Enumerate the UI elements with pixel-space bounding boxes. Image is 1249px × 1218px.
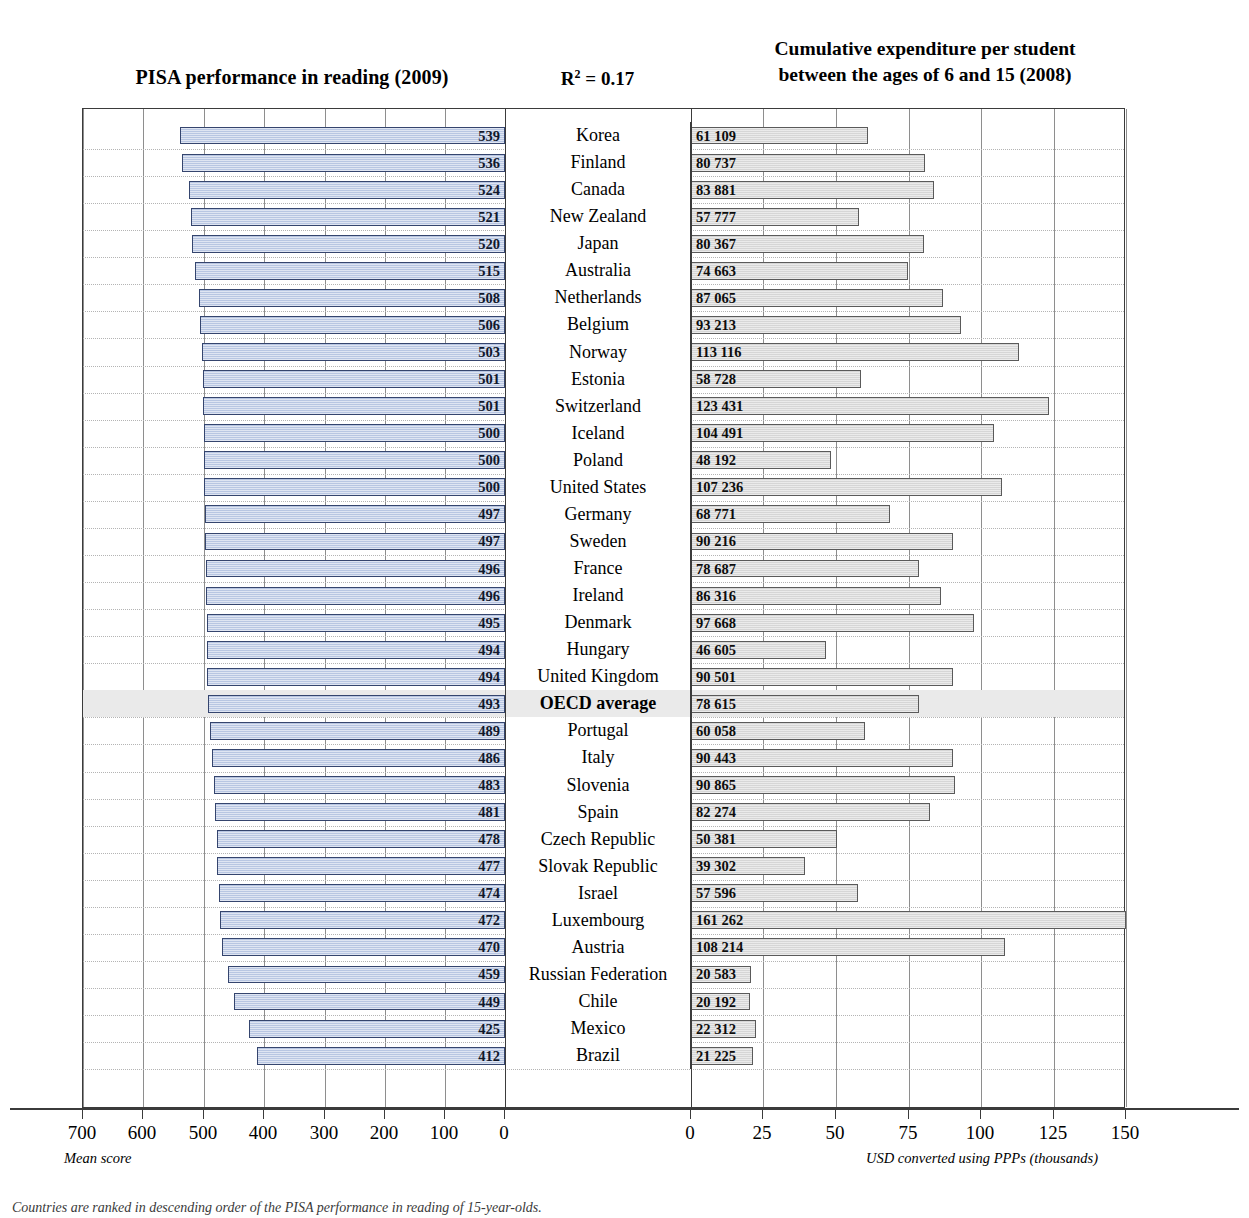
chart-row: 503Norway113 116 bbox=[83, 338, 1124, 365]
country-label: Luxembourg bbox=[505, 907, 691, 934]
r-squared-r: R bbox=[561, 68, 575, 89]
bar-pisa-score: 493 bbox=[208, 695, 505, 713]
bar-value-expenditure: 90 443 bbox=[696, 751, 736, 766]
bar-expenditure: 48 192 bbox=[691, 451, 831, 469]
axis-caption-right: USD converted using PPPs (thousands) bbox=[866, 1150, 1098, 1167]
bar-value-expenditure: 123 431 bbox=[696, 399, 743, 414]
chart-row: 425Mexico22 312 bbox=[83, 1015, 1124, 1042]
bar-pisa-score: 483 bbox=[214, 776, 505, 794]
bar-value-expenditure: 57 777 bbox=[696, 209, 736, 224]
bar-expenditure: 46 605 bbox=[691, 641, 826, 659]
axis-tick-left-200 bbox=[384, 1108, 385, 1119]
bar-value-pisa-score: 497 bbox=[478, 534, 500, 549]
bar-expenditure: 78 687 bbox=[691, 560, 919, 578]
bar-value-pisa-score: 503 bbox=[478, 345, 500, 360]
bar-value-expenditure: 74 663 bbox=[696, 264, 736, 279]
chart-row: 412Brazil21 225 bbox=[83, 1042, 1124, 1069]
axis-tick-label-left-700: 700 bbox=[52, 1122, 112, 1144]
chart-row: 478Czech Republic50 381 bbox=[83, 826, 1124, 853]
bar-expenditure: 90 443 bbox=[691, 749, 953, 767]
bar-expenditure: 61 109 bbox=[691, 127, 868, 145]
bar-expenditure: 93 213 bbox=[691, 316, 961, 334]
bar-expenditure: 57 777 bbox=[691, 208, 859, 226]
axis-tick-label-left-500: 500 bbox=[173, 1122, 233, 1144]
country-label: Russian Federation bbox=[505, 961, 691, 988]
bar-pisa-score: 494 bbox=[207, 668, 505, 686]
chart-row: 493OECD average78 615 bbox=[83, 690, 1124, 717]
chart-row: 506Belgium93 213 bbox=[83, 311, 1124, 338]
bar-expenditure: 22 312 bbox=[691, 1020, 756, 1038]
bar-pisa-score: 497 bbox=[205, 533, 505, 551]
chart-row: 496France78 687 bbox=[83, 555, 1124, 582]
bar-expenditure: 80 367 bbox=[691, 235, 924, 253]
bar-value-pisa-score: 508 bbox=[478, 291, 500, 306]
chart-title-right-line2: between the ages of 6 and 15 (2008) bbox=[690, 62, 1160, 88]
bar-value-expenditure: 61 109 bbox=[696, 128, 736, 143]
bar-pisa-score: 486 bbox=[212, 749, 505, 767]
bar-pisa-score: 496 bbox=[206, 560, 505, 578]
bar-value-pisa-score: 496 bbox=[478, 561, 500, 576]
chart-row: 521New Zealand57 777 bbox=[83, 203, 1124, 230]
bar-value-expenditure: 20 583 bbox=[696, 967, 736, 982]
bar-value-pisa-score: 474 bbox=[478, 886, 500, 901]
bar-value-expenditure: 78 687 bbox=[696, 561, 736, 576]
bar-pisa-score: 459 bbox=[228, 966, 505, 984]
bar-expenditure: 108 214 bbox=[691, 938, 1005, 956]
chart-row: 472Luxembourg161 262 bbox=[83, 907, 1124, 934]
axis-tick-left-400 bbox=[263, 1108, 264, 1119]
bar-value-expenditure: 107 236 bbox=[696, 480, 743, 495]
bar-value-pisa-score: 539 bbox=[478, 128, 500, 143]
bar-value-pisa-score: 486 bbox=[478, 751, 500, 766]
country-label: Denmark bbox=[505, 609, 691, 636]
country-label: Italy bbox=[505, 744, 691, 771]
chart-row: 497Sweden90 216 bbox=[83, 528, 1124, 555]
country-label: Slovak Republic bbox=[505, 853, 691, 880]
bar-expenditure: 97 668 bbox=[691, 614, 974, 632]
bar-value-expenditure: 113 116 bbox=[696, 345, 742, 360]
bar-expenditure: 39 302 bbox=[691, 857, 805, 875]
bar-pisa-score: 536 bbox=[182, 154, 505, 172]
axis-tick-label-left-600: 600 bbox=[112, 1122, 172, 1144]
bar-value-pisa-score: 521 bbox=[478, 209, 500, 224]
country-label: Finland bbox=[505, 149, 691, 176]
chart-row: 470Austria108 214 bbox=[83, 934, 1124, 961]
country-label: Iceland bbox=[505, 420, 691, 447]
country-label: New Zealand bbox=[505, 203, 691, 230]
bar-pisa-score: 506 bbox=[200, 316, 505, 334]
bar-expenditure: 68 771 bbox=[691, 505, 890, 523]
chart-row: 501Switzerland123 431 bbox=[83, 393, 1124, 420]
country-label: Hungary bbox=[505, 636, 691, 663]
axis-tick-label-right-75: 75 bbox=[878, 1122, 938, 1144]
country-label: Netherlands bbox=[505, 284, 691, 311]
bar-value-pisa-score: 494 bbox=[478, 642, 500, 657]
r-squared-value: = 0.17 bbox=[581, 68, 635, 89]
country-label: Belgium bbox=[505, 311, 691, 338]
axis-tick-right-0 bbox=[690, 1108, 691, 1119]
bar-value-pisa-score: 449 bbox=[478, 994, 500, 1009]
chart-row: 449Chile20 192 bbox=[83, 988, 1124, 1015]
bar-expenditure: 82 274 bbox=[691, 803, 930, 821]
bar-value-expenditure: 82 274 bbox=[696, 805, 736, 820]
country-label: Israel bbox=[505, 880, 691, 907]
bar-value-pisa-score: 496 bbox=[478, 588, 500, 603]
bar-expenditure: 87 065 bbox=[691, 289, 943, 307]
bar-value-pisa-score: 501 bbox=[478, 399, 500, 414]
bar-value-expenditure: 21 225 bbox=[696, 1048, 736, 1063]
bar-expenditure: 21 225 bbox=[691, 1047, 753, 1065]
bar-pisa-score: 501 bbox=[203, 370, 505, 388]
axis-tick-left-100 bbox=[444, 1108, 445, 1119]
axis-tick-label-right-25: 25 bbox=[732, 1122, 792, 1144]
bar-pisa-score: 497 bbox=[205, 505, 505, 523]
bar-pisa-score: 489 bbox=[210, 722, 505, 740]
bar-value-expenditure: 97 668 bbox=[696, 615, 736, 630]
chart-row: 524Canada83 881 bbox=[83, 176, 1124, 203]
bar-value-expenditure: 93 213 bbox=[696, 318, 736, 333]
bar-value-pisa-score: 425 bbox=[478, 1021, 500, 1036]
chart-row: 496Ireland86 316 bbox=[83, 582, 1124, 609]
chart-row: 459Russian Federation20 583 bbox=[83, 961, 1124, 988]
bar-expenditure: 20 583 bbox=[691, 966, 751, 984]
axis-tick-label-right-50: 50 bbox=[805, 1122, 865, 1144]
bar-expenditure: 50 381 bbox=[691, 830, 837, 848]
bar-value-pisa-score: 470 bbox=[478, 940, 500, 955]
axis-tick-label-right-100: 100 bbox=[950, 1122, 1010, 1144]
